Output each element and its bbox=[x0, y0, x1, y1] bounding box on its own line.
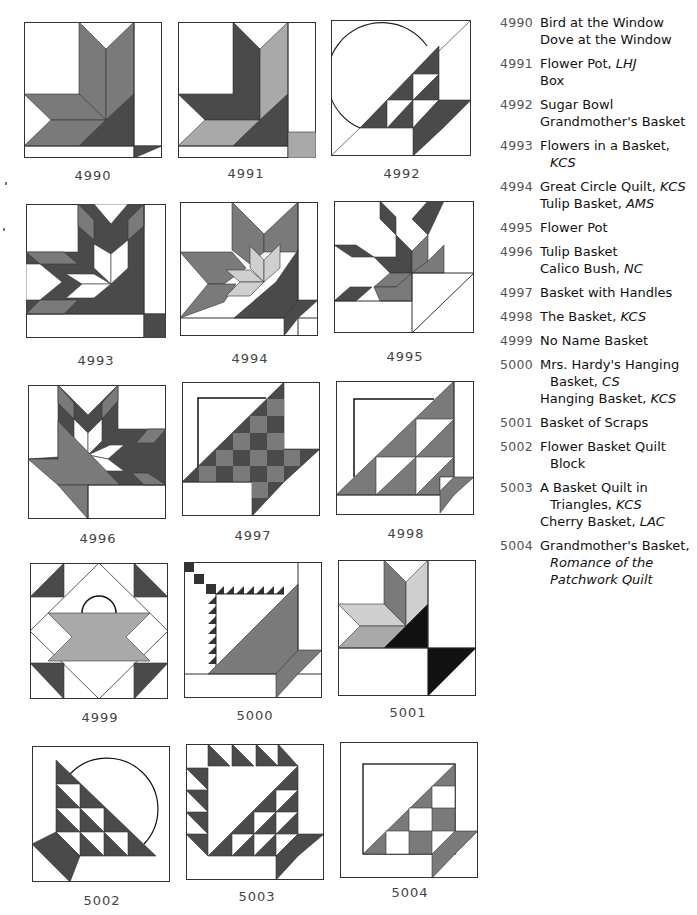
quilt-block-5004-drawing bbox=[340, 742, 478, 878]
quilt-block-4997-drawing bbox=[182, 382, 320, 516]
index-number: 4992 bbox=[500, 96, 540, 130]
quilt-block-4994 bbox=[180, 202, 318, 336]
index-entry-4993: 4993 Flowers in a Basket, KCS bbox=[500, 137, 697, 171]
index-name: Sugar Bowl bbox=[540, 96, 697, 113]
quilt-block-4998 bbox=[336, 381, 474, 515]
index-name: Bird at the Window bbox=[540, 14, 697, 31]
index-entry-4994: 4994 Great Circle Quilt, KCS Tulip Baske… bbox=[500, 178, 697, 212]
index-entry-4999: 4999 No Name Basket bbox=[500, 332, 697, 349]
index-name: Block bbox=[540, 455, 697, 472]
index-number: 4996 bbox=[500, 243, 540, 277]
index-name: Dove at the Window bbox=[540, 31, 697, 48]
index-number: 5000 bbox=[500, 356, 540, 407]
block-number-4990: 4990 bbox=[53, 168, 133, 183]
quilt-block-4991 bbox=[178, 22, 316, 158]
block-number-5001: 5001 bbox=[368, 705, 448, 720]
index-entry-4998: 4998 The Basket, KCS bbox=[500, 308, 697, 325]
index-name: No Name Basket bbox=[540, 332, 697, 349]
index-number: 4997 bbox=[500, 284, 540, 301]
index-entry-4995: 4995 Flower Pot bbox=[500, 219, 697, 236]
index-name: A Basket Quilt in bbox=[540, 479, 697, 496]
block-number-4994: 4994 bbox=[210, 351, 290, 366]
index-name: Great Circle Quilt, KCS bbox=[540, 178, 697, 195]
block-number-5004: 5004 bbox=[370, 885, 450, 900]
quilt-block-4990-drawing bbox=[24, 22, 162, 158]
quilt-block-4991-drawing bbox=[178, 22, 316, 158]
index-name: Box bbox=[540, 72, 697, 89]
quilt-block-5001-drawing bbox=[338, 560, 476, 696]
attribution: Patchwork Quilt bbox=[550, 572, 653, 587]
index-name: Tulip Basket, AMS bbox=[540, 195, 697, 212]
block-number-4997: 4997 bbox=[213, 528, 293, 543]
quilt-block-4992-drawing bbox=[331, 20, 471, 156]
index-name: Patchwork Quilt bbox=[540, 571, 697, 588]
block-number-4993: 4993 bbox=[56, 353, 136, 368]
index-number: 5002 bbox=[500, 438, 540, 472]
block-number-5000: 5000 bbox=[215, 708, 295, 723]
attribution: CS bbox=[602, 374, 620, 389]
index-entry-4990: 4990 Bird at the Window Dove at the Wind… bbox=[500, 14, 697, 48]
quilt-block-4993-drawing bbox=[26, 204, 166, 338]
index-name: Flower Pot bbox=[540, 219, 697, 236]
attribution: LHJ bbox=[616, 56, 637, 71]
quilt-block-5002-drawing bbox=[32, 746, 170, 882]
scan-mark bbox=[3, 228, 5, 231]
quilt-block-4995 bbox=[334, 201, 474, 333]
index-name: Grandmother's Basket bbox=[540, 113, 697, 130]
index-name: Triangles, KCS bbox=[540, 496, 697, 513]
quilt-block-5003 bbox=[186, 744, 324, 880]
index-name: Calico Bush, NC bbox=[540, 260, 697, 277]
index-number: 4990 bbox=[500, 14, 540, 48]
attribution: KCS bbox=[651, 391, 677, 406]
attribution: KCS bbox=[660, 179, 686, 194]
index-name: Mrs. Hardy's Hanging bbox=[540, 356, 697, 373]
index-entry-4992: 4992 Sugar Bowl Grandmother's Basket bbox=[500, 96, 697, 130]
block-number-4999: 4999 bbox=[60, 710, 140, 725]
index-name: Flowers in a Basket, bbox=[540, 137, 697, 154]
quilt-block-5002 bbox=[32, 746, 170, 882]
index-entry-4997: 4997 Basket with Handles bbox=[500, 284, 697, 301]
quilt-block-4992 bbox=[331, 20, 471, 156]
attribution: LAC bbox=[640, 514, 665, 529]
index-name: Tulip Basket bbox=[540, 243, 697, 260]
index-number: 4998 bbox=[500, 308, 540, 325]
quilt-block-4996 bbox=[28, 385, 166, 519]
quilt-block-4990 bbox=[24, 22, 162, 158]
index-name: Flower Pot, LHJ bbox=[540, 55, 697, 72]
index-name: Hanging Basket, KCS bbox=[540, 390, 697, 407]
quilt-block-4994-drawing bbox=[180, 202, 318, 336]
quilt-block-5000-drawing bbox=[184, 562, 322, 698]
index-name: Basket, CS bbox=[540, 373, 697, 390]
quilt-block-4998-drawing bbox=[336, 381, 474, 515]
index-number: 4993 bbox=[500, 137, 540, 171]
quilt-block-4993 bbox=[26, 204, 166, 338]
index-name: Grandmother's Basket, bbox=[540, 537, 697, 554]
quilt-block-4996-drawing bbox=[28, 385, 166, 519]
index-name: Cherry Basket, LAC bbox=[540, 513, 697, 530]
index-entry-4996: 4996 Tulip Basket Calico Bush, NC bbox=[500, 243, 697, 277]
attribution: KCS bbox=[550, 155, 576, 170]
index-name: KCS bbox=[540, 154, 697, 171]
block-number-4991: 4991 bbox=[206, 166, 286, 181]
quilt-block-4999-drawing bbox=[30, 563, 168, 699]
index-name: Romance of the bbox=[540, 554, 697, 571]
index-entry-5001: 5001 Basket of Scraps bbox=[500, 414, 697, 431]
quilt-block-5000 bbox=[184, 562, 322, 698]
attribution: Romance of the bbox=[550, 555, 653, 570]
block-number-4992: 4992 bbox=[362, 166, 442, 181]
attribution: NC bbox=[624, 261, 643, 276]
index-name: Basket with Handles bbox=[540, 284, 697, 301]
quilt-block-4999 bbox=[30, 563, 168, 699]
index-number: 4999 bbox=[500, 332, 540, 349]
block-number-5003: 5003 bbox=[217, 889, 297, 904]
index-entry-5000: 5000 Mrs. Hardy's Hanging Basket, CS Han… bbox=[500, 356, 697, 407]
index-number: 4994 bbox=[500, 178, 540, 212]
quilt-block-4997 bbox=[182, 382, 320, 516]
index-number: 5003 bbox=[500, 479, 540, 530]
index-name: Flower Basket Quilt bbox=[540, 438, 697, 455]
index-number: 4991 bbox=[500, 55, 540, 89]
quilt-block-5001 bbox=[338, 560, 476, 696]
index-number: 4995 bbox=[500, 219, 540, 236]
index-name: The Basket, KCS bbox=[540, 308, 697, 325]
block-number-4996: 4996 bbox=[58, 531, 138, 546]
